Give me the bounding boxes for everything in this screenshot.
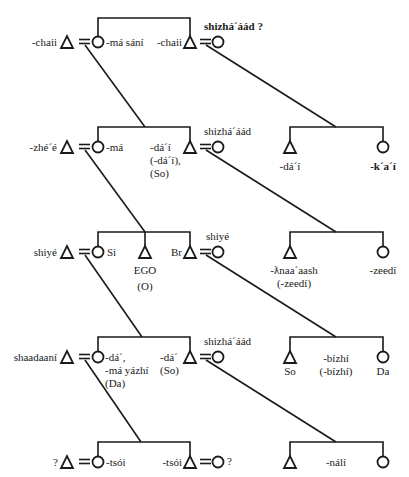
sibling-bracket-g5-right — [290, 442, 383, 457]
label-g2-brother-line2: (-dá´í), — [150, 154, 181, 166]
label-g2-brother-wife-note: shizhá´áád — [204, 125, 251, 137]
label-g2-brother-line3: (So) — [150, 167, 169, 179]
female-circle-icon — [93, 457, 104, 468]
label-g3-cross-female: -zeedí — [370, 264, 397, 276]
descent-line — [85, 150, 145, 232]
label-g4-daughter-line1: -dá´, — [105, 351, 125, 363]
male-triangle-icon — [284, 351, 296, 363]
male-triangle-icon — [284, 456, 296, 468]
female-circle-icon — [213, 457, 224, 468]
female-circle-icon — [213, 247, 224, 258]
male-triangle-icon — [61, 456, 73, 468]
label-g1-right-husband: -chaii — [157, 36, 182, 48]
label-g3-cross-male-line1: -ƛnaa´aash — [270, 264, 317, 276]
male-triangle-icon — [184, 456, 196, 468]
label-g4-daughter-line3: (Da) — [105, 377, 125, 389]
male-triangle-icon — [184, 141, 196, 153]
label-g4-right-middle-line1: -bízhí — [323, 352, 349, 364]
label-g3-brother-wife-note: shiyé — [206, 230, 229, 242]
label-g4-son-line2: (So) — [160, 364, 179, 376]
female-circle-icon — [378, 142, 389, 153]
label-g4-right-middle-line2: (-bízhí) — [320, 365, 353, 377]
label-g5-left-husband: ? — [53, 456, 58, 468]
sibling-bracket-g2-left — [98, 127, 190, 142]
label-g3-ego: EGO — [134, 264, 157, 276]
male-triangle-icon — [61, 246, 73, 258]
male-triangle-icon — [284, 246, 296, 258]
label-g4-son-wife-note: shizhá´áád — [204, 335, 251, 347]
male-triangle-icon — [184, 36, 196, 48]
female-circle-icon — [93, 37, 104, 48]
label-g5-right-husband: -tsói — [162, 456, 182, 468]
sibling-bracket-g2-right — [290, 127, 383, 142]
label-g1-left-husband: -chaii — [32, 36, 57, 48]
female-circle-icon — [378, 352, 389, 363]
label-g1-left-wife: -má sání — [106, 36, 144, 48]
sibling-bracket-g4-right — [290, 337, 383, 352]
label-g2-left-wife: -má — [106, 141, 123, 153]
label-g3-left-husband: shiyé — [34, 246, 57, 258]
female-circle-icon — [213, 142, 224, 153]
sibling-bracket-g3-left — [98, 232, 190, 247]
sibling-bracket-g5-left — [98, 442, 190, 457]
female-circle-icon — [378, 457, 389, 468]
sibling-bracket-g3-right — [290, 232, 383, 247]
female-circle-icon — [213, 352, 224, 363]
descent-line — [206, 360, 336, 442]
descent-line — [206, 45, 336, 127]
ego-triangle-icon — [139, 246, 151, 258]
sibling-bracket-g1 — [98, 18, 190, 37]
male-triangle-icon — [184, 246, 196, 258]
male-triangle-icon — [61, 351, 73, 363]
label-g3-sister: Si — [107, 246, 116, 258]
label-g2-cousin-male: -dá´í — [280, 160, 301, 172]
label-g3-brother: Br — [171, 246, 182, 258]
female-circle-icon — [93, 247, 104, 258]
sibling-bracket-g4-left — [98, 337, 190, 352]
label-g3-ego-sub: (O) — [137, 280, 152, 292]
descent-line — [85, 45, 145, 127]
label-g3-cross-male-line2: (-zeedí) — [277, 277, 311, 289]
label-g4-son-line1: -dá´ — [160, 351, 178, 363]
label-g4-left-husband: shaadaaní — [14, 351, 57, 363]
female-circle-icon — [378, 247, 389, 258]
female-circle-icon — [93, 142, 104, 153]
label-g4-right-daughter: Da — [377, 365, 390, 377]
male-triangle-icon — [61, 36, 73, 48]
descent-line — [206, 150, 336, 232]
label-g5-left-wife: -tsói — [106, 456, 126, 468]
male-triangle-icon — [184, 351, 196, 363]
female-circle-icon — [213, 37, 224, 48]
label-g4-daughter-line2: -má yázhí — [105, 364, 149, 376]
female-circle-icon — [93, 352, 104, 363]
kinship-lines — [0, 0, 409, 477]
label-g5-right-wife-note: ? — [227, 455, 232, 467]
label-g5-right-group-middle: -nálí — [326, 456, 346, 468]
label-g2-brother-line1: -dá´í — [150, 141, 171, 153]
label-g2-cousin-female: -k´a´í — [370, 160, 396, 172]
label-g2-left-husband: -zhé´é — [30, 141, 57, 153]
label-g4-right-son: So — [284, 365, 296, 377]
male-triangle-icon — [61, 141, 73, 153]
male-triangle-icon — [284, 141, 296, 153]
label-g1-right-wife-note: shizhá´áád ? — [204, 20, 263, 32]
